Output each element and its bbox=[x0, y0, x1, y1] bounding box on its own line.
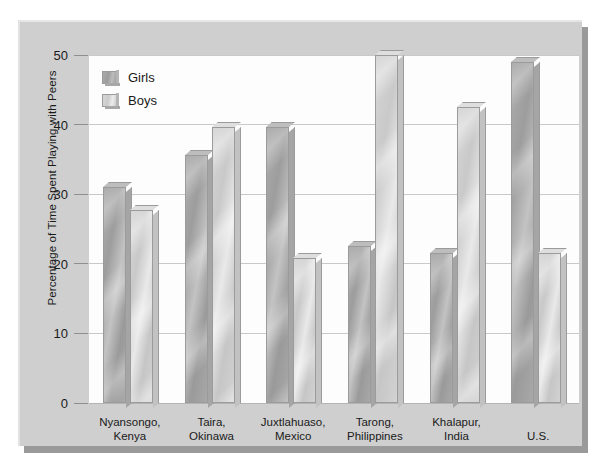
y-tick-label-50: 50 bbox=[34, 49, 68, 62]
bar-front-face bbox=[185, 155, 208, 403]
bar-front-face bbox=[293, 258, 316, 403]
chart-panel: Percentage of Time Spent Playing with Pe… bbox=[18, 20, 582, 446]
bar-front-face bbox=[457, 107, 480, 403]
tick-mark-30 bbox=[74, 194, 88, 195]
bar-girls-group-2 bbox=[185, 155, 208, 403]
gridline-40 bbox=[89, 124, 579, 125]
gridline-20 bbox=[89, 263, 579, 264]
plot-area bbox=[89, 55, 579, 403]
bar-boys-group-3 bbox=[293, 258, 316, 403]
bar-front-face bbox=[212, 127, 235, 403]
category-label-line1: U.S. bbox=[477, 429, 594, 443]
bar-girls-group-5 bbox=[430, 253, 453, 403]
bar-side-face bbox=[480, 107, 486, 408]
bar-girls-group-1 bbox=[103, 187, 126, 403]
legend-item-boys: Boys bbox=[102, 89, 157, 112]
bar-front-face bbox=[430, 253, 453, 403]
bar-boys-group-6 bbox=[538, 253, 561, 403]
bar-boys-group-1 bbox=[130, 210, 153, 403]
gridline-0 bbox=[89, 403, 579, 404]
legend-label-boys: Boys bbox=[128, 94, 157, 107]
bar-side-face bbox=[316, 258, 322, 408]
gridline-10 bbox=[89, 333, 579, 334]
tick-mark-10 bbox=[74, 333, 88, 334]
bar-front-face bbox=[538, 253, 561, 403]
tick-mark-50 bbox=[74, 55, 88, 56]
bar-side-face bbox=[153, 210, 159, 408]
tick-mark-40 bbox=[74, 124, 88, 125]
bar-front-face bbox=[348, 246, 371, 403]
gridline-50 bbox=[89, 55, 579, 56]
category-label-6: U.S. bbox=[477, 429, 594, 443]
y-tick-label-0: 0 bbox=[34, 397, 68, 410]
bar-front-face bbox=[375, 55, 398, 403]
bar-side-face bbox=[235, 127, 241, 408]
bar-boys-group-2 bbox=[212, 127, 235, 403]
category-label-line1: Khalapur, bbox=[396, 415, 518, 429]
y-tick-label-30: 30 bbox=[34, 188, 68, 201]
bar-front-face bbox=[130, 210, 153, 403]
tick-mark-20 bbox=[74, 263, 88, 264]
bar-side-face bbox=[561, 253, 567, 408]
bar-girls-group-3 bbox=[266, 127, 289, 403]
y-tick-label-20: 20 bbox=[34, 258, 68, 271]
gridline-30 bbox=[89, 194, 579, 195]
bar-boys-group-5 bbox=[457, 107, 480, 403]
legend-swatch-girls bbox=[102, 71, 117, 84]
bar-front-face bbox=[511, 62, 534, 403]
tick-mark-0 bbox=[74, 403, 88, 404]
bar-girls-group-4 bbox=[348, 246, 371, 403]
y-tick-label-40: 40 bbox=[34, 119, 68, 132]
bar-front-face bbox=[266, 127, 289, 403]
bar-side-face bbox=[398, 55, 404, 408]
legend-swatch-boys bbox=[102, 94, 117, 107]
y-tick-label-10: 10 bbox=[34, 327, 68, 340]
legend-item-girls: Girls bbox=[102, 66, 157, 89]
chart-legend: Girls Boys bbox=[102, 66, 157, 112]
legend-label-girls: Girls bbox=[128, 71, 155, 84]
bar-girls-group-6 bbox=[511, 62, 534, 403]
bar-front-face bbox=[103, 187, 126, 403]
bar-boys-group-4 bbox=[375, 55, 398, 403]
chart-figure: Percentage of Time Spent Playing with Pe… bbox=[0, 0, 594, 462]
